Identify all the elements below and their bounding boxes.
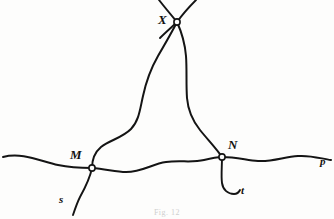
point-label-m: M <box>70 148 82 161</box>
curve-label-t: t <box>241 185 244 196</box>
branch-above-x-right <box>177 0 196 22</box>
curve-label-s: s <box>59 194 63 205</box>
node-marker-n <box>219 154 225 160</box>
point-label-n: N <box>228 138 237 151</box>
branch-t-from-n <box>222 157 240 194</box>
topology-figure: X M N p s t Fig. 12 <box>0 0 334 219</box>
base-curve-p <box>3 156 331 172</box>
point-label-x: X <box>158 13 167 26</box>
curve-label-p: p <box>320 156 326 167</box>
loop-arc-x-to-n <box>177 22 222 157</box>
loop-arc-m-to-x <box>92 22 177 168</box>
figure-canvas <box>0 0 334 219</box>
figure-caption: Fig. 12 <box>0 208 334 217</box>
node-marker-x <box>174 19 180 25</box>
node-marker-m <box>89 165 95 171</box>
